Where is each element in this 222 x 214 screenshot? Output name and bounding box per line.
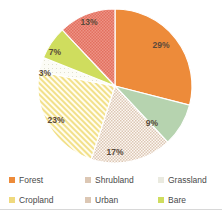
pie-slice-label-grassland: 3% <box>39 68 52 78</box>
legend-label-bare: Bare <box>168 196 186 205</box>
legend-item-urban[interactable]: Urban <box>85 196 158 205</box>
pie-slice-label-urban: 17% <box>106 147 123 157</box>
legend-swatch-urban-icon <box>85 197 91 203</box>
legend-item-shrubland[interactable]: Shrubland <box>85 176 158 185</box>
legend-item-forest[interactable]: Forest <box>9 176 85 185</box>
chart-legend: Forest Shrubland Grassland Cropland Urba… <box>0 170 222 210</box>
pie-slice-label-cropland: 23% <box>47 115 64 125</box>
pie-slice-label-forest-secondary: 13% <box>80 17 97 27</box>
legend-label-shrubland: Shrubland <box>95 176 134 185</box>
pie-chart-plot-area: 29% 9% 17% 23% 3% 7% 13% <box>0 0 222 168</box>
legend-item-grassland[interactable]: Grassland <box>158 176 222 185</box>
pie-slice-label-bare: 7% <box>49 47 62 57</box>
legend-swatch-forest-icon <box>9 177 15 183</box>
legend-swatch-cropland-icon <box>9 197 15 203</box>
figure-bottom-rule <box>0 209 222 210</box>
legend-label-cropland: Cropland <box>19 196 54 205</box>
pie-chart-svg: 29% 9% 17% 23% 3% 7% 13% <box>0 0 222 168</box>
pie-slices-group <box>38 9 192 163</box>
legend-label-urban: Urban <box>95 196 118 205</box>
legend-swatch-grassland-icon <box>158 177 164 183</box>
legend-item-bare[interactable]: Bare <box>158 196 222 205</box>
legend-swatch-bare-icon <box>158 197 164 203</box>
legend-label-forest: Forest <box>19 176 43 185</box>
pie-slice-label-shrubland: 9% <box>146 118 159 128</box>
legend-swatch-shrubland-icon <box>85 177 91 183</box>
pie-chart-figure: 29% 9% 17% 23% 3% 7% 13% Forest Shrublan… <box>0 0 222 214</box>
legend-item-cropland[interactable]: Cropland <box>9 196 85 205</box>
pie-slice-label-forest: 29% <box>152 40 169 50</box>
legend-label-grassland: Grassland <box>168 176 207 185</box>
